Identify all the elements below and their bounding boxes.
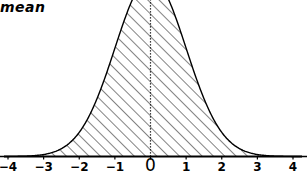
hatched-area xyxy=(0,0,307,157)
x-tick-label-3: 3 xyxy=(253,160,261,174)
x-tick-label-neg1: −1 xyxy=(106,160,124,174)
x-tick-label-neg3: −3 xyxy=(34,160,52,174)
x-tick-label-2: 2 xyxy=(218,160,226,174)
x-tick-label-0: 0 xyxy=(145,158,156,172)
x-tick-label-neg4: −4 xyxy=(0,160,17,174)
distribution-plot xyxy=(0,0,307,180)
x-tick-label-neg2: −2 xyxy=(70,160,88,174)
x-tick-label-4: 4 xyxy=(289,160,297,174)
x-tick-label-1: 1 xyxy=(182,160,190,174)
normal-distribution-figure: mean −4−3−2−101234 xyxy=(0,0,307,180)
x-axis-tick-labels: −4−3−2−101234 xyxy=(0,160,307,180)
